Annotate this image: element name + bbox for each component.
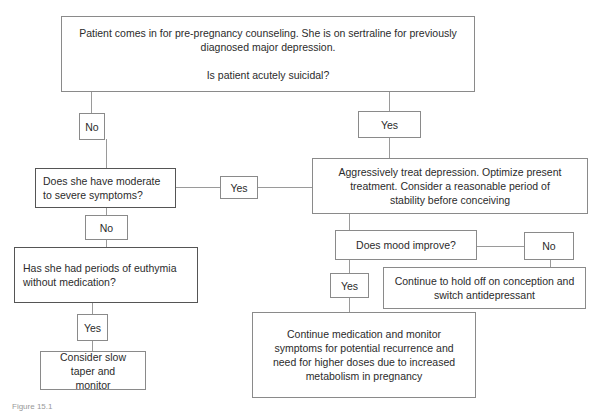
- euthymia-question: Has she had periods of euthymia without …: [14, 247, 198, 303]
- connector-yes-aggressive-h: [257, 187, 312, 188]
- connector-yes-aggressive: [389, 137, 390, 159]
- mood-no-label: No: [524, 232, 574, 260]
- moderate-no-label: No: [85, 215, 128, 240]
- connector-yes-continue: [349, 297, 350, 313]
- connector-moderate-yes: [175, 187, 221, 188]
- start-description: Patient comes in for pre-pregnancy couns…: [76, 26, 460, 54]
- start-node: Patient comes in for pre-pregnancy couns…: [61, 16, 475, 92]
- start-question: Is patient acutely suicidal?: [207, 68, 330, 82]
- suicidal-no-label: No: [79, 113, 105, 140]
- figure-caption: Figure 15.1: [12, 402, 52, 411]
- continue-medication-node: Continue medication and monitor symptoms…: [252, 312, 476, 398]
- suicidal-yes-label: Yes: [358, 111, 421, 138]
- slow-taper-node: Consider slow taper and monitor: [40, 351, 146, 390]
- aggressive-treat-node: Aggressively treat depression. Optimize …: [312, 158, 588, 214]
- euthymia-yes-label: Yes: [77, 314, 108, 341]
- connector-aggressive-mood: [349, 213, 350, 230]
- moderate-symptoms-question: Does she have moderate to severe symptom…: [35, 168, 176, 208]
- mood-yes-label: Yes: [330, 273, 369, 298]
- connector-mood-no: [476, 246, 524, 247]
- connector-mood-yes: [349, 260, 350, 274]
- connector-start-yes: [389, 92, 390, 112]
- switch-antidepressant-node: Continue to hold off on conception and s…: [383, 267, 586, 309]
- connector-euthymia-yes: [92, 302, 93, 314]
- connector-no-moderate: [106, 139, 107, 169]
- moderate-yes-label: Yes: [220, 176, 258, 199]
- connector-start-no: [91, 92, 92, 114]
- mood-improve-question: Does mood improve?: [335, 230, 477, 260]
